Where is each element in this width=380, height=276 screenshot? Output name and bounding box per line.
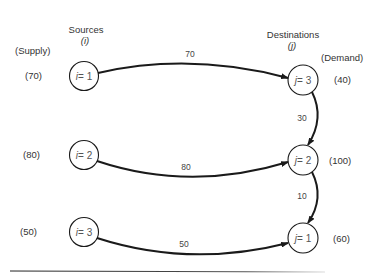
destinations-title: Destinations	[267, 29, 319, 40]
flow-amount-i3-j1: 50	[179, 239, 188, 249]
destination-eq: = 2	[297, 155, 311, 166]
flow-amount-i1-j3: 70	[185, 49, 194, 59]
destination-label-3: j = 3	[288, 65, 318, 95]
supply-value-2: (80)	[23, 149, 40, 160]
destination-label-1: j = 1	[288, 223, 318, 253]
destination-eq: = 1	[297, 233, 311, 244]
supply-title: (Supply)	[15, 45, 50, 56]
source-eq: = 2	[78, 150, 92, 161]
demand-title: (Demand)	[321, 52, 363, 63]
demand-value-2: (100)	[329, 155, 351, 166]
flow-arc-j2-j1	[308, 172, 318, 223]
source-label-1: i = 1	[69, 61, 99, 91]
source-eq: = 1	[78, 71, 92, 82]
flow-arc-j3-j2	[308, 92, 318, 145]
source-eq: = 3	[78, 227, 92, 238]
demand-value-3: (40)	[334, 74, 351, 85]
destination-eq: = 3	[297, 75, 311, 86]
destination-label-2: j = 2	[288, 145, 318, 175]
flow-amount-j2-j1: 10	[297, 191, 306, 201]
flow-arc-i2-j2	[97, 161, 288, 177]
destinations-index: (j)	[288, 40, 296, 51]
supply-value-1: (70)	[25, 70, 42, 81]
demand-value-1: (60)	[333, 233, 350, 244]
flow-arc-i1-j3	[98, 64, 288, 78]
sources-index: (i)	[81, 35, 89, 46]
flow-amount-i2-j2: 80	[181, 162, 190, 172]
sources-title: Sources	[69, 24, 104, 35]
supply-value-3: (50)	[20, 226, 37, 237]
network-diagram	[0, 0, 380, 276]
source-label-2: i = 2	[69, 140, 99, 170]
flow-amount-j3-j2: 30	[297, 113, 306, 123]
bottom-rule	[10, 271, 325, 272]
flow-arc-i3-j1	[97, 238, 288, 254]
source-label-3: i = 3	[69, 217, 99, 247]
